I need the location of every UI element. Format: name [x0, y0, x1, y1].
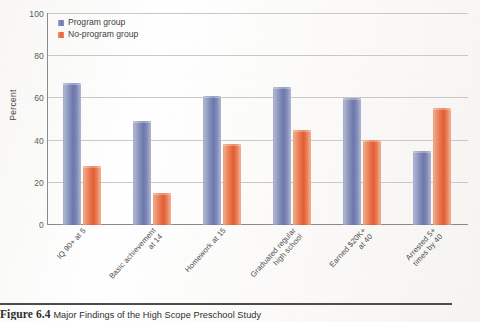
figure-number: Figure 6.4	[0, 308, 51, 320]
bar-highlight	[153, 193, 171, 195]
bar-groups	[47, 13, 468, 225]
figure-caption: Figure 6.4 Major Findings of the High Sc…	[0, 308, 480, 320]
x-label-2: Homework at 15	[183, 226, 228, 274]
bar-noprogram-1	[153, 193, 171, 225]
bar-highlight	[363, 140, 381, 142]
bar-noprogram-2	[223, 144, 241, 225]
y-tick-20: 20	[4, 178, 44, 188]
figure-caption-text: Major Findings of the High Scope Prescho…	[53, 310, 261, 320]
bar-group-0	[47, 13, 117, 225]
bar-highlight	[413, 151, 431, 153]
bar-group-3	[257, 13, 327, 225]
x-label-5: Arrested 5+times by 40	[404, 226, 445, 268]
bar-group-1	[117, 13, 187, 225]
bar-program-3	[273, 87, 291, 225]
bar-highlight	[63, 83, 81, 85]
x-label-0: IQ 90+ at 5	[55, 226, 88, 261]
bar-noprogram-0	[83, 166, 101, 225]
y-tick-100: 100	[4, 9, 44, 19]
y-tick-40: 40	[4, 136, 44, 146]
x-label-1: Basic achievementat 14	[107, 226, 164, 287]
x-axis-labels: IQ 90+ at 5 Basic achievementat 14 Homew…	[47, 226, 468, 300]
bar-group-4	[327, 13, 397, 225]
bar-program-1	[133, 121, 151, 225]
bar-highlight	[433, 108, 451, 110]
x-label-4: Earned $20K+at 40	[328, 226, 375, 275]
bar-highlight	[133, 121, 151, 123]
bar-program-0	[63, 83, 81, 225]
y-axis: 100 80 60 40 20 0 Percent	[0, 0, 44, 300]
bar-chart: 100 80 60 40 20 0 Percent Program group …	[0, 0, 480, 300]
y-axis-title: Percent	[8, 75, 18, 135]
y-tick-0: 0	[4, 220, 44, 230]
x-label-3: Graduated regularhigh school	[249, 226, 305, 285]
bar-program-5	[413, 151, 431, 225]
bar-highlight	[223, 144, 241, 146]
bar-noprogram-5	[433, 108, 451, 225]
bar-highlight	[83, 166, 101, 168]
bar-highlight	[343, 98, 361, 100]
bar-highlight	[273, 87, 291, 89]
bar-highlight	[203, 96, 221, 98]
bar-highlight	[293, 130, 311, 132]
bar-group-5	[397, 13, 467, 225]
bar-noprogram-3	[293, 130, 311, 225]
caption-divider	[0, 303, 452, 305]
y-tick-80: 80	[4, 51, 44, 61]
bar-program-2	[203, 96, 221, 225]
bar-program-4	[343, 98, 361, 225]
bar-noprogram-4	[363, 140, 381, 225]
bar-group-2	[187, 13, 257, 225]
